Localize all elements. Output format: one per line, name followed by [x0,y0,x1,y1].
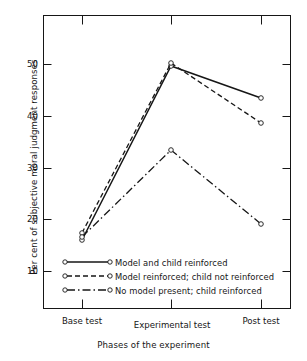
legend-sample-dash-dot [63,288,112,292]
series-model-and-child-reinforced [80,64,264,243]
plot-svg [0,0,307,361]
figure-container: Per cent of subjective moral judgment re… [0,0,307,361]
plot-frame [44,16,291,309]
legend-sample-dashed [63,274,112,278]
series-no-model-present-child-reinforced [80,148,264,240]
legend-sample-solid [63,260,112,264]
